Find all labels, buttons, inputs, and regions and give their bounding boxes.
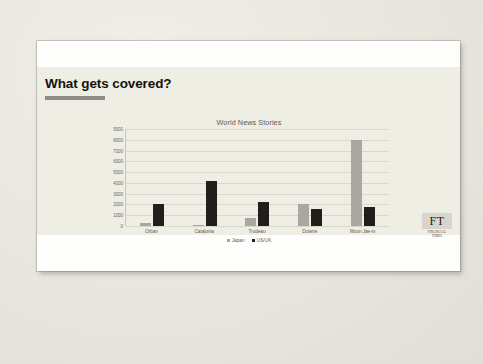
x-axis-tick-label: Moon Jae-in bbox=[336, 229, 389, 234]
plot-wrapper: 0100020003000400050006000700080009000 bbox=[125, 129, 389, 226]
presentation-slide: What gets covered? World News Stories 01… bbox=[37, 41, 460, 271]
y-axis-tick-label: 4000 bbox=[113, 180, 123, 185]
ft-wordmark-line2: TIMES bbox=[422, 234, 452, 238]
bar-group bbox=[284, 129, 337, 226]
page-title: What gets covered? bbox=[45, 77, 171, 92]
financial-times-logo: FT FINANCIAL TIMES bbox=[422, 213, 452, 238]
y-axis-tick-label: 8000 bbox=[113, 137, 123, 142]
gridline: 0 bbox=[126, 226, 389, 227]
legend-swatch-icon bbox=[252, 239, 256, 243]
bar-groups bbox=[126, 129, 389, 226]
y-axis-tick-label: 9000 bbox=[113, 127, 123, 132]
bar-japan-catalonia bbox=[193, 225, 204, 226]
bar-chart: World News Stories 010002000300040005000… bbox=[99, 117, 399, 255]
bar-us-uk-catalonia bbox=[206, 181, 217, 226]
plot-area: 0100020003000400050006000700080009000 bbox=[125, 129, 389, 226]
bar-japan-trudeau bbox=[245, 218, 256, 226]
legend-swatch-icon bbox=[227, 239, 231, 243]
title-underline-rule bbox=[45, 96, 105, 100]
bar-japan-duterte bbox=[298, 204, 309, 226]
y-axis-tick-label: 3000 bbox=[113, 191, 123, 196]
y-axis-tick-label: 7000 bbox=[113, 148, 123, 153]
bar-group bbox=[126, 129, 179, 226]
bar-group bbox=[336, 129, 389, 226]
legend-label: Japan bbox=[232, 238, 245, 243]
y-axis-tick-label: 1000 bbox=[113, 213, 123, 218]
x-axis-tick-label: Catalonia bbox=[178, 229, 231, 234]
y-axis-tick-label: 2000 bbox=[113, 202, 123, 207]
chart-title: World News Stories bbox=[99, 117, 399, 129]
y-axis-tick-label: 0 bbox=[121, 224, 123, 229]
ft-monogram: FT bbox=[422, 213, 452, 229]
legend-item-us-uk[interactable]: US/UK bbox=[252, 238, 272, 243]
bar-japan-moon-jae-in bbox=[351, 140, 362, 226]
x-axis-tick-labels: OrbanCataloniaTrudeauDuterteMoon Jae-in bbox=[125, 226, 389, 234]
x-axis-tick-label: Duterte bbox=[283, 229, 336, 234]
ft-wordmark: FINANCIAL TIMES bbox=[422, 230, 452, 238]
legend-item-japan[interactable]: Japan bbox=[227, 238, 245, 243]
y-axis-tick-label: 5000 bbox=[113, 170, 123, 175]
slide-top-band bbox=[37, 41, 460, 67]
x-axis-tick-label: Orban bbox=[125, 229, 178, 234]
y-axis-tick-label: 6000 bbox=[113, 159, 123, 164]
chart-legend: JapanUS/UK bbox=[99, 238, 399, 243]
bar-us-uk-trudeau bbox=[258, 202, 269, 226]
bar-group bbox=[231, 129, 284, 226]
bar-us-uk-moon-jae-in bbox=[364, 207, 375, 226]
bar-us-uk-orban bbox=[153, 204, 164, 226]
bar-japan-orban bbox=[140, 223, 151, 226]
bar-us-uk-duterte bbox=[311, 209, 322, 226]
x-axis-tick-label: Trudeau bbox=[231, 229, 284, 234]
title-block: What gets covered? bbox=[45, 77, 171, 100]
bar-group bbox=[179, 129, 232, 226]
legend-label: US/UK bbox=[257, 238, 272, 243]
